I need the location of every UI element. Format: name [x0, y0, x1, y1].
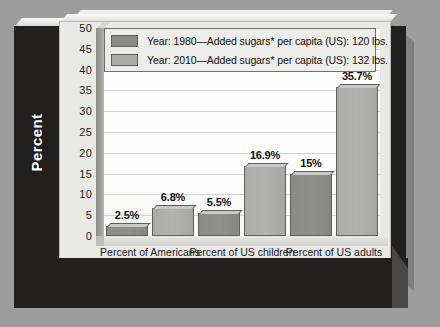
bar-value-label: 2.5% — [115, 209, 139, 221]
legend-label: Year: 2010—Added sugars* per capita (US)… — [147, 54, 388, 66]
bar-top-face — [291, 171, 335, 175]
legend: Year: 1980—Added sugars* per capita (US)… — [104, 28, 376, 72]
y-axis-title-strip: Percent — [14, 26, 60, 258]
legend-item: Year: 1980—Added sugars* per capita (US)… — [111, 33, 369, 48]
legend-swatch — [111, 54, 138, 66]
3d-plot-left-wall — [96, 28, 104, 236]
3d-plot-floor — [96, 236, 388, 246]
legend-swatch — [111, 35, 138, 47]
y-tick-label: 10 — [79, 189, 92, 200]
3d-plot-floor-edge — [96, 236, 104, 246]
chart-figure: Percent 50454035302520151050 2.5%6.8%5.5… — [0, 0, 440, 327]
legend-label: Year: 1980—Added sugars* per capita (US)… — [147, 35, 388, 47]
bar-value-label: 16.9% — [250, 149, 280, 161]
y-axis: 50454035302520151050 — [60, 22, 96, 238]
y-tick-label: 20 — [79, 147, 92, 158]
y-axis-title: Percent — [29, 113, 46, 171]
bar — [198, 213, 240, 236]
y-tick-label: 40 — [79, 64, 92, 75]
bar-value-label: 6.8% — [161, 191, 185, 203]
bar-value-label: 15% — [300, 157, 321, 169]
y-tick-label: 5 — [86, 210, 92, 221]
bar-value-label: 5.5% — [207, 196, 231, 208]
bar-top-face — [107, 223, 151, 227]
bar — [152, 208, 194, 236]
bar — [244, 166, 286, 236]
bar-top-face — [245, 163, 289, 167]
legend-item: Year: 2010—Added sugars* per capita (US)… — [111, 52, 369, 67]
y-tick-label: 25 — [79, 127, 92, 138]
bar — [290, 174, 332, 236]
y-tick-label: 30 — [79, 106, 92, 117]
y-tick-label: 45 — [79, 43, 92, 54]
bar-top-face — [153, 205, 197, 209]
bar — [336, 87, 378, 236]
3d-card-cap — [60, 14, 397, 22]
bar-top-face — [199, 210, 243, 214]
y-tick-label: 35 — [79, 85, 92, 96]
y-tick-label: 0 — [86, 231, 92, 242]
bar-top-face — [337, 84, 380, 88]
dark-floor-band — [14, 258, 392, 308]
bar — [106, 226, 148, 236]
y-tick-label: 15 — [79, 168, 92, 179]
y-tick-label: 50 — [79, 23, 92, 34]
